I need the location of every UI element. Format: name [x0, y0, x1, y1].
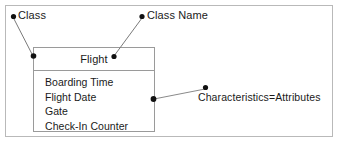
marker-dot-characteristics [203, 85, 208, 90]
leader-line-overlay [0, 0, 339, 143]
marker-dot-class-name [139, 14, 144, 19]
leader-line-class [14, 19, 33, 56]
marker-dot-class-name-anchor [111, 54, 116, 59]
diagram-canvas: Flight Boarding Time Flight Date Gate Ch… [0, 0, 339, 143]
marker-dot-attribute-anchor [151, 96, 157, 102]
leader-line-characteristics [154, 89, 205, 99]
leader-line-class-name [114, 18, 142, 56]
marker-dot-class-box-anchor [31, 53, 37, 59]
marker-dot-class [11, 14, 16, 19]
